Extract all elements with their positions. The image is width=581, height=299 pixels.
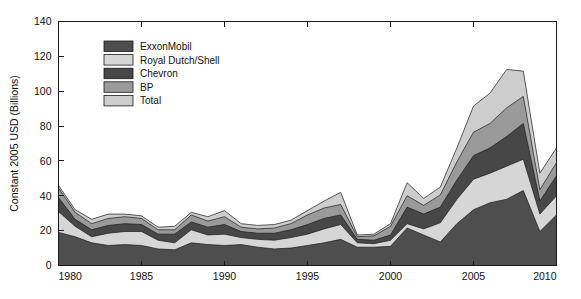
- legend-label-royal-dutch-shell: Royal Dutch/Shell: [140, 55, 219, 66]
- x-tick-label: 2005: [462, 270, 486, 282]
- x-tick-label: 2010: [533, 270, 557, 282]
- y-tick-label: 0: [46, 259, 52, 271]
- y-tick-label: 120: [34, 50, 52, 62]
- y-tick-label: 100: [34, 85, 52, 97]
- y-tick-label: 80: [40, 120, 52, 132]
- y-tick-label: 20: [40, 224, 52, 236]
- chart-figure: 1980198519901995200020052010 02040608010…: [0, 0, 581, 299]
- legend-label-exxonmobil: ExxonMobil: [140, 41, 192, 52]
- x-tick-label: 1990: [213, 270, 237, 282]
- y-tick-label: 140: [34, 15, 52, 27]
- x-tick-label: 1995: [296, 270, 320, 282]
- legend-label-total: Total: [140, 95, 161, 106]
- x-tick-label: 1985: [130, 270, 154, 282]
- x-tick-label: 2000: [379, 270, 403, 282]
- y-axis-label: Constant 2005 USD (Billions): [8, 75, 20, 212]
- chart-legend: ExxonMobilRoyal Dutch/ShellChevronBPTota…: [104, 41, 219, 106]
- y-tick-label: 40: [40, 190, 52, 202]
- legend-swatch-bp: [104, 82, 133, 93]
- legend-label-bp: BP: [140, 82, 154, 93]
- stacked-area-chart: 1980198519901995200020052010 02040608010…: [0, 0, 581, 299]
- y-tick-label: 60: [40, 155, 52, 167]
- legend-swatch-total: [104, 95, 133, 106]
- legend-swatch-royal-dutch-shell: [104, 55, 133, 66]
- x-tick-label: 1980: [59, 270, 83, 282]
- y-axis-title: Constant 2005 USD (Billions): [8, 75, 20, 212]
- legend-label-chevron: Chevron: [140, 68, 178, 79]
- legend-swatch-chevron: [104, 68, 133, 79]
- legend-swatch-exxonmobil: [104, 41, 133, 52]
